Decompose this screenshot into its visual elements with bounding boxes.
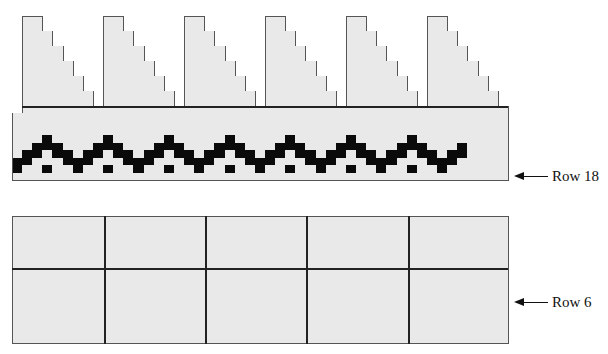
row-18-arrow-line [522, 176, 548, 177]
major-row-line [12, 268, 508, 270]
chart-cell [498, 173, 509, 181]
row-6-arrow-line [522, 302, 548, 303]
row-18-label: Row 18 [552, 168, 599, 185]
major-column-line [205, 216, 207, 344]
knitting-chart-figure: Row 18 Row 6 [0, 0, 608, 354]
chart-cell [498, 336, 509, 344]
major-column-line [306, 216, 308, 344]
row-18-arrow-icon [514, 172, 524, 180]
row-6-label: Row 6 [552, 294, 592, 311]
major-column-line [408, 216, 410, 344]
major-column-line [104, 216, 106, 344]
chart-section-divider [22, 106, 508, 108]
row-6-arrow-icon [514, 298, 524, 306]
